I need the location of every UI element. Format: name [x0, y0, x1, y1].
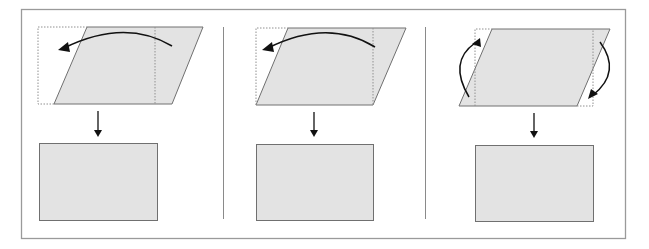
- arrowhead-icon: [472, 38, 481, 47]
- result-rectangle: [257, 145, 374, 221]
- down-arrow-head-icon: [94, 130, 102, 137]
- arrowhead-icon: [58, 42, 70, 52]
- parallelogram-shape: [54, 27, 203, 104]
- result-rectangle: [476, 146, 594, 222]
- fold-diagram: [0, 0, 649, 249]
- down-arrow-head-icon: [310, 130, 318, 137]
- down-arrow-head-icon: [530, 131, 538, 138]
- arrowhead-icon: [262, 42, 274, 52]
- result-rectangle: [40, 144, 158, 221]
- parallelogram-shape: [459, 29, 610, 106]
- parallelogram-shape: [256, 28, 406, 105]
